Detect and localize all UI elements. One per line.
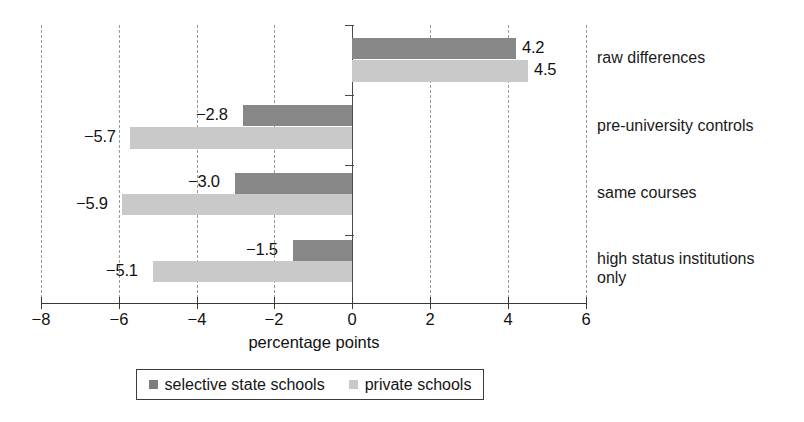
x-tick--8 (41, 297, 42, 309)
x-tick-4 (508, 297, 509, 309)
x-tick-label-4: 4 (503, 310, 512, 329)
bar-pre-university-controls-private-schools (130, 127, 352, 149)
x-axis-title: percentage points (0, 333, 628, 352)
x-tick--2 (274, 297, 275, 309)
bar-label-pre-university-selective: −2.8 (196, 105, 228, 124)
bar-label-raw-differences-private: 4.5 (534, 60, 556, 79)
x-tick-2 (430, 297, 431, 309)
gridline-6 (586, 25, 587, 303)
bar-raw-differences-selective-state-schools (352, 38, 516, 59)
x-tick-6 (586, 297, 587, 309)
bar-label-raw-differences-selective: 4.2 (522, 38, 544, 57)
x-tick--4 (197, 297, 198, 309)
category-tick-0 (345, 25, 354, 26)
bar-pre-university-controls-selective-state-schools (243, 105, 352, 126)
legend-item-selective-state-schools: selective state schools (149, 376, 325, 394)
bar-high-status-institutions-private-schools (153, 261, 352, 282)
bar-label-pre-university-private: −5.7 (84, 127, 116, 146)
bar-high-status-institutions-selective-state-schools (293, 240, 352, 261)
x-tick-label-0: 0 (347, 310, 356, 329)
category-tick-2 (345, 165, 354, 166)
plot-area: 4.2 4.5 −2.8 −5.7 −3.0 −5.9 −1.5 −5.1 −8… (0, 0, 804, 422)
category-label-pre-university-controls: pre-university controls (597, 116, 754, 135)
legend: selective state schools private schools (136, 369, 484, 400)
legend-label-selective-state-schools: selective state schools (165, 376, 325, 394)
x-tick--6 (119, 297, 120, 309)
bar-label-high-status-private: −5.1 (106, 261, 138, 280)
bar-label-same-courses-private: −5.9 (76, 194, 108, 213)
x-tick-label-6: 6 (581, 310, 590, 329)
bar-raw-differences-private-schools (352, 60, 528, 82)
bar-label-high-status-selective: −1.5 (246, 240, 278, 259)
x-tick-label--8: −8 (32, 310, 51, 329)
category-tick-3 (345, 235, 354, 236)
category-label-raw-differences: raw differences (597, 48, 705, 67)
x-tick-label-2: 2 (425, 310, 434, 329)
legend-item-private-schools: private schools (349, 376, 472, 394)
legend-swatch-icon-private-schools (349, 380, 358, 389)
x-tick-label--6: −6 (110, 310, 129, 329)
x-axis-line (41, 303, 587, 304)
category-label-same-courses: same courses (597, 183, 697, 202)
x-tick-0 (352, 297, 353, 309)
x-tick-label--2: −2 (265, 310, 284, 329)
category-label-high-status-institutions-only: high status institutions only (597, 249, 754, 287)
legend-label-private-schools: private schools (365, 376, 472, 394)
bar-same-courses-selective-state-schools (235, 173, 352, 194)
bar-chart: 4.2 4.5 −2.8 −5.7 −3.0 −5.9 −1.5 −5.1 −8… (0, 0, 804, 422)
bar-same-courses-private-schools (122, 194, 352, 215)
bar-label-same-courses-selective: −3.0 (188, 172, 220, 191)
category-tick-1 (345, 95, 354, 96)
legend-swatch-icon-selective-state-schools (149, 380, 158, 389)
gridline--8 (41, 25, 42, 303)
x-tick-label--4: −4 (188, 310, 207, 329)
